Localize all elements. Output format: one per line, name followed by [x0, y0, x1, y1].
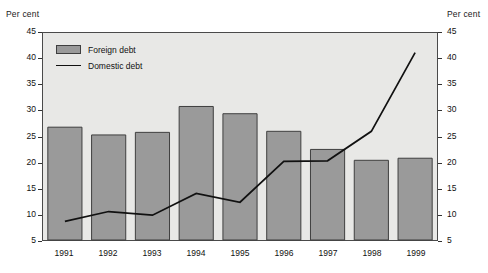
y-tickmark-right [438, 137, 442, 138]
y-tick-right-40: 40 [447, 52, 473, 62]
left-axis-unit-label: Per cent [6, 9, 39, 19]
bar-1991 [48, 127, 82, 240]
y-tick-left-10: 10 [10, 209, 36, 219]
y-tick-left-40: 40 [10, 52, 36, 62]
y-tick-right-20: 20 [447, 157, 473, 167]
y-tick-left-30: 30 [10, 104, 36, 114]
bar-1997 [310, 149, 344, 240]
x-tick-1995: 1995 [217, 248, 263, 258]
legend-item-domestic-debt: Domestic debt [56, 60, 142, 71]
y-tickmark-right [438, 215, 442, 216]
y-tick-left-25: 25 [10, 131, 36, 141]
debt-composition-chart: Per cent Per cent 51015202530354045 5101… [0, 0, 488, 273]
y-tickmark-right [438, 163, 442, 164]
bar-1999 [398, 158, 432, 240]
line-swatch-icon [56, 65, 81, 66]
y-tickmark-left [38, 241, 42, 242]
x-tick-1999: 1999 [393, 248, 439, 258]
y-tick-right-5: 5 [447, 235, 473, 245]
y-tick-right-10: 10 [447, 209, 473, 219]
bar-swatch-icon [56, 45, 81, 54]
right-axis-unit-label: Per cent [447, 9, 480, 19]
y-tickmark-right [438, 84, 442, 85]
bar-1992 [92, 135, 126, 240]
y-tick-right-30: 30 [447, 104, 473, 114]
bar-1993 [135, 132, 169, 240]
x-tick-1993: 1993 [129, 248, 175, 258]
y-tickmark-right [438, 110, 442, 111]
y-tick-right-15: 15 [447, 183, 473, 193]
x-tick-1996: 1996 [261, 248, 307, 258]
bar-1998 [354, 160, 388, 240]
x-tick-1994: 1994 [173, 248, 219, 258]
legend-label-foreign-debt: Foreign debt [88, 45, 136, 55]
x-tick-1992: 1992 [85, 248, 131, 258]
legend-item-foreign-debt: Foreign debt [56, 44, 142, 55]
bar-1996 [267, 131, 301, 240]
y-tick-right-35: 35 [447, 78, 473, 88]
y-tick-left-45: 45 [10, 26, 36, 36]
y-tickmark-right [438, 58, 442, 59]
y-tick-left-15: 15 [10, 183, 36, 193]
chart-legend: Foreign debt Domestic debt [56, 44, 142, 71]
x-tick-1997: 1997 [305, 248, 351, 258]
legend-label-domestic-debt: Domestic debt [88, 61, 142, 71]
x-tick-1998: 1998 [349, 248, 395, 258]
y-tick-left-35: 35 [10, 78, 36, 88]
y-tick-right-25: 25 [447, 131, 473, 141]
y-tick-left-5: 5 [10, 235, 36, 245]
y-tickmark-right [438, 241, 442, 242]
y-tick-left-20: 20 [10, 157, 36, 167]
y-tickmark-right [438, 189, 442, 190]
y-tickmark-right [438, 32, 442, 33]
bar-1994 [179, 106, 213, 240]
bar-1995 [223, 114, 257, 240]
x-tick-1991: 1991 [41, 248, 87, 258]
y-tick-right-45: 45 [447, 26, 473, 36]
